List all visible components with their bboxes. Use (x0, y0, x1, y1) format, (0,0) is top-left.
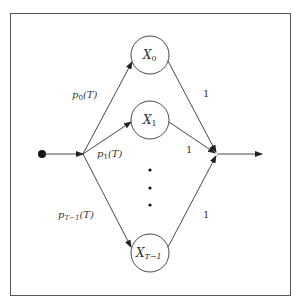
edge-from-x0 (168, 61, 216, 152)
edge-from-xt1 (168, 156, 216, 247)
label-pt-1: pT−1(T) (58, 209, 94, 222)
diagram-canvas: X0 X1 XT−1 p0(T) p1(T) pT−1(T) 1 1 1 (0, 0, 299, 302)
node-xt-1: XT−1 (131, 234, 169, 272)
edge-to-xt1 (83, 154, 131, 247)
weight-x1: 1 (186, 144, 192, 155)
ellipsis-dots (148, 168, 151, 206)
edge-to-x0 (83, 62, 132, 154)
node-x0: X0 (131, 36, 169, 74)
label-p0: p0(T) (72, 89, 97, 102)
weight-x0: 1 (203, 88, 209, 99)
weight-xt-1: 1 (203, 209, 209, 220)
label-p1: p1(T) (97, 148, 122, 161)
node-x1: X1 (131, 101, 169, 139)
